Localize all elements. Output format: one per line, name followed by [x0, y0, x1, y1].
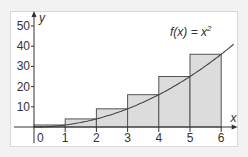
rectangles	[34, 54, 221, 127]
x-tick-label: 2	[93, 131, 100, 145]
origin-label: 0	[37, 131, 44, 145]
x-axis-label: x	[230, 111, 238, 125]
y-tick-label: 30	[17, 59, 31, 73]
function-label: f(x) = x2	[170, 24, 212, 39]
riemann-sum-chart: 12345610203040500xy f(x) = x2	[0, 0, 248, 157]
y-tick-label: 40	[17, 39, 31, 53]
y-tick-label: 10	[17, 100, 31, 114]
x-tick-label: 4	[155, 131, 162, 145]
y-axis-label: y	[38, 11, 46, 25]
rectangle-bar	[190, 54, 221, 127]
rectangle-bar	[159, 77, 190, 128]
x-axis-arrow-icon	[232, 125, 238, 130]
y-tick-label: 50	[17, 19, 31, 33]
x-tick-label: 1	[62, 131, 69, 145]
y-axis-arrow-icon	[32, 11, 37, 17]
x-tick-label: 6	[218, 131, 225, 145]
x-tick-label: 3	[124, 131, 131, 145]
x-tick-label: 5	[187, 131, 194, 145]
rectangle-bar	[128, 95, 159, 127]
y-tick-label: 20	[17, 80, 31, 94]
